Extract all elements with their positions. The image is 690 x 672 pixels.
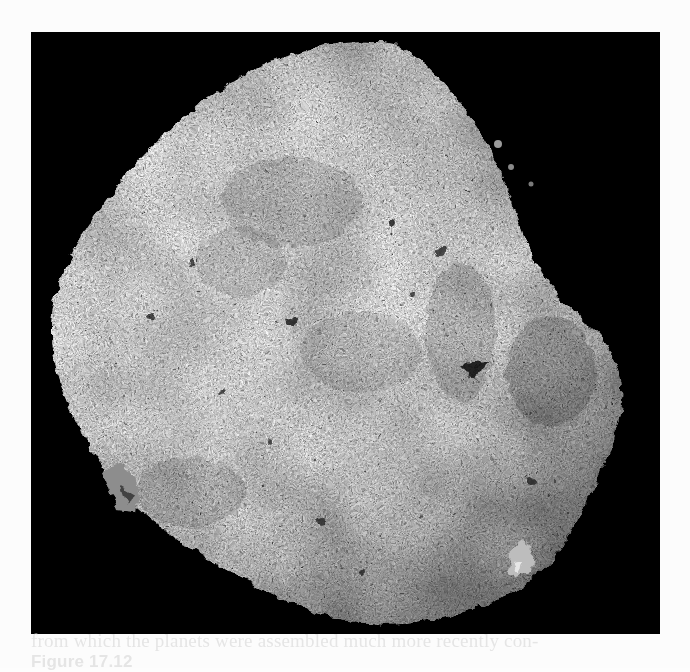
figure-label: Figure 17.12 <box>31 652 133 671</box>
bleed-through-text-line: from which the planets were assembled mu… <box>31 630 539 652</box>
asteroid-image <box>31 32 660 634</box>
bleed-through-figure-label: Figure 17.12 <box>31 652 147 672</box>
asteroid-figure <box>31 32 660 634</box>
